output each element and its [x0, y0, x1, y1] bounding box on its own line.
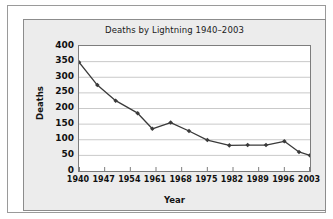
y-axis-tick-label: 100	[48, 133, 74, 143]
line-chart-svg	[79, 46, 310, 171]
data-point-marker	[227, 143, 232, 148]
y-axis-tick-label: 50	[48, 149, 74, 159]
x-axis-title: Year	[24, 195, 325, 205]
y-axis-tick-label: 300	[48, 71, 74, 81]
data-point-marker	[205, 138, 210, 143]
data-point-marker	[245, 143, 250, 148]
chart-panel: Deaths by Lightning 1940–2003 Deaths Yea…	[23, 19, 326, 211]
y-axis-tick-label: 200	[48, 102, 74, 112]
gridlines	[79, 62, 310, 156]
y-axis-title: Deaths	[35, 78, 45, 128]
data-point-marker	[187, 129, 192, 134]
y-axis-tick-label: 400	[48, 40, 74, 50]
data-point-marker	[264, 143, 269, 148]
data-point-marker	[308, 153, 310, 158]
plot-area	[78, 45, 311, 172]
y-axis-tick-label: 350	[48, 55, 74, 65]
y-axis-tick-label: 150	[48, 118, 74, 128]
outer-frame: Deaths by Lightning 1940–2003 Deaths Yea…	[7, 5, 326, 213]
y-axis-tick-label: 250	[48, 86, 74, 96]
x-axis-tick-label: 2003	[294, 175, 324, 184]
x-axis-ticks	[80, 167, 310, 171]
y-axis-tick-label: 0	[48, 165, 74, 175]
chart-title: Deaths by Lightning 1940–2003	[24, 25, 325, 35]
screenshot-root: Deaths by Lightning 1940–2003 Deaths Yea…	[0, 0, 333, 219]
